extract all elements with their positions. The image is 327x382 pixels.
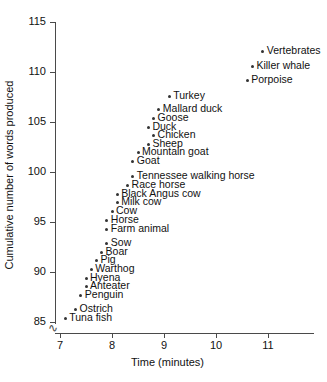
y-tick-label: 85 xyxy=(20,316,46,327)
data-point-label: Killer whale xyxy=(256,60,310,71)
data-point-label: Turkey xyxy=(173,90,205,101)
x-axis-label: Time (minutes) xyxy=(60,356,275,368)
data-point-marker xyxy=(105,228,108,231)
x-tick-mark xyxy=(268,333,269,338)
y-tick-label: 105 xyxy=(20,116,46,127)
data-point-label: Penguin xyxy=(85,289,124,300)
x-tick-mark xyxy=(216,333,217,338)
y-tick-label: 115 xyxy=(20,16,46,27)
data-point-marker xyxy=(261,50,264,53)
plot-area: ∿ 859095100105110115 7891011 Vertebrates… xyxy=(0,0,327,382)
x-tick-label: 9 xyxy=(152,340,176,351)
data-point-marker xyxy=(85,277,88,280)
x-tick-mark xyxy=(164,333,165,338)
data-point-label: Porpoise xyxy=(251,74,292,85)
x-tick-label: 8 xyxy=(100,340,124,351)
y-tick-label: 90 xyxy=(20,266,46,277)
data-point-marker xyxy=(105,219,108,222)
y-tick-mark xyxy=(50,322,55,323)
data-point-marker xyxy=(246,79,249,82)
data-point-marker xyxy=(131,160,134,163)
x-tick-mark xyxy=(60,333,61,338)
data-point-marker xyxy=(168,95,171,98)
x-tick-label: 7 xyxy=(48,340,72,351)
y-tick-label: 95 xyxy=(20,216,46,227)
data-point-label: Goat xyxy=(137,155,160,166)
y-tick-mark xyxy=(50,122,55,123)
y-tick-label: 110 xyxy=(20,66,46,77)
y-axis-label: Cumulative number of words produced xyxy=(2,5,16,345)
y-tick-mark xyxy=(50,222,55,223)
data-point-marker xyxy=(116,193,119,196)
data-point-marker xyxy=(79,294,82,297)
y-tick-mark xyxy=(50,172,55,173)
y-tick-mark xyxy=(50,72,55,73)
y-axis-line xyxy=(55,22,56,324)
chart-figure: ∿ 859095100105110115 7891011 Vertebrates… xyxy=(0,0,327,382)
data-point-label: Farm animal xyxy=(111,223,169,234)
data-point-marker xyxy=(251,65,254,68)
x-axis-line xyxy=(55,333,314,334)
y-tick-mark xyxy=(50,22,55,23)
y-tick-mark xyxy=(50,272,55,273)
data-point-label: Tuna fish xyxy=(69,312,112,323)
y-tick-label: 100 xyxy=(20,166,46,177)
data-point-marker xyxy=(147,126,150,129)
x-tick-label: 11 xyxy=(256,340,280,351)
data-point-marker xyxy=(64,317,67,320)
data-point-label: Vertebrates xyxy=(267,45,321,56)
x-tick-label: 10 xyxy=(204,340,228,351)
x-tick-mark xyxy=(112,333,113,338)
